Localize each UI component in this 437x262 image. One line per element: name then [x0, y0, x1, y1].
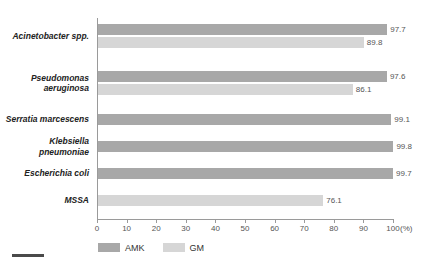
category-label: Acinetobacter spp. — [12, 31, 89, 42]
bar — [98, 114, 391, 125]
x-tick-label: 80 — [319, 224, 349, 234]
bar-value-label: 99.7 — [396, 168, 412, 179]
bar-value-label: 86.1 — [356, 84, 372, 95]
x-tick-label: 70 — [289, 224, 319, 234]
legend-item-amk: AMK — [98, 243, 145, 253]
bar-value-label: 97.6 — [390, 71, 406, 82]
legend-label-gm: GM — [190, 243, 205, 253]
x-tick-label: 10 — [112, 224, 142, 234]
category-label: Serratia marcescens — [6, 114, 89, 125]
x-tick-mark — [215, 219, 216, 223]
bar — [98, 37, 364, 48]
bar — [98, 195, 323, 206]
x-tick-mark — [127, 219, 128, 223]
page-artifact-mark — [12, 254, 44, 257]
chart-legend: AMK GM — [98, 242, 216, 253]
bar-chart: 0102030405060708090100 (%) Acinetobacter… — [0, 0, 437, 262]
bar-value-label: 89.8 — [367, 37, 383, 48]
bar — [98, 141, 393, 152]
x-axis-unit-label: (%) — [400, 224, 412, 234]
x-tick-mark — [334, 219, 335, 223]
x-tick-label: 90 — [348, 224, 378, 234]
x-tick-label: 40 — [200, 224, 230, 234]
legend-item-gm: GM — [163, 243, 205, 253]
bar-value-label: 99.8 — [396, 141, 412, 152]
x-tick-mark — [304, 219, 305, 223]
x-tick-label: 0 — [82, 224, 112, 234]
bar-value-label: 76.1 — [326, 195, 342, 206]
x-tick-mark — [275, 219, 276, 223]
x-tick-label: 50 — [230, 224, 260, 234]
bar-value-label: 99.1 — [394, 114, 410, 125]
bar — [98, 71, 387, 82]
legend-label-amk: AMK — [125, 243, 145, 253]
category-label: Klebsiella pneumoniae — [39, 136, 89, 157]
legend-swatch-gm — [163, 243, 185, 252]
x-tick-mark — [245, 219, 246, 223]
category-label: Pseudomonas aeruginosa — [31, 73, 89, 94]
bar — [98, 24, 387, 35]
bar — [98, 168, 393, 179]
bar — [98, 84, 353, 95]
x-tick-mark — [393, 219, 394, 223]
plot-area: 0102030405060708090100 (%) Acinetobacter… — [0, 0, 437, 262]
x-tick-mark — [97, 219, 98, 223]
x-tick-mark — [156, 219, 157, 223]
x-tick-mark — [363, 219, 364, 223]
x-tick-label: 60 — [260, 224, 290, 234]
bar-value-label: 97.7 — [390, 24, 406, 35]
category-label: Escherichia coli — [24, 168, 89, 179]
category-label: MSSA — [64, 195, 89, 206]
x-tick-label: 30 — [171, 224, 201, 234]
x-tick-label: 20 — [141, 224, 171, 234]
x-tick-mark — [186, 219, 187, 223]
legend-swatch-amk — [98, 243, 120, 252]
